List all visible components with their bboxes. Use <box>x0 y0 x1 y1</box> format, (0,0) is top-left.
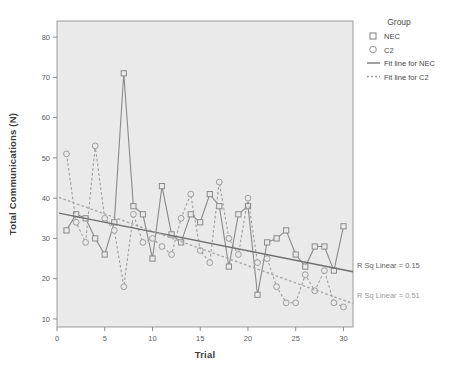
legend-item-nec[interactable]: NEC <box>384 32 400 41</box>
data-point-marker <box>140 212 145 217</box>
data-point-marker <box>92 143 98 149</box>
data-point-marker <box>102 215 108 221</box>
data-point-marker <box>64 228 69 233</box>
data-point-marker <box>293 300 299 306</box>
data-point-marker <box>236 212 241 217</box>
data-point-marker <box>312 244 317 249</box>
y-axis-title: Total Communications (N) <box>7 113 18 235</box>
data-point-marker <box>121 284 127 290</box>
data-point-marker <box>150 256 155 261</box>
data-point-marker <box>93 236 98 241</box>
data-point-marker <box>265 240 270 245</box>
data-point-marker <box>131 204 136 209</box>
data-point-marker <box>226 264 231 269</box>
data-point-marker <box>159 244 165 250</box>
data-point-marker <box>188 212 193 217</box>
data-point-marker <box>274 284 280 290</box>
scatter-line-chart: 1020304050607080 051015202530 Trial Tota… <box>0 0 461 382</box>
data-point-marker <box>283 300 289 306</box>
y-tick-label: 40 <box>42 194 50 203</box>
data-point-marker <box>303 264 308 269</box>
data-point-marker <box>255 260 261 266</box>
data-point-marker <box>226 236 232 242</box>
data-point-marker <box>150 236 156 242</box>
y-tick-label: 10 <box>42 315 50 324</box>
data-point-marker <box>216 179 222 185</box>
chart-figure: 1020304050607080 051015202530 Trial Tota… <box>0 0 461 382</box>
data-point-marker <box>322 244 327 249</box>
data-point-marker <box>236 252 242 258</box>
data-point-marker <box>264 256 270 262</box>
legend-title: Group <box>387 17 411 27</box>
data-point-marker <box>274 236 279 241</box>
data-point-marker <box>207 260 213 266</box>
data-point-marker <box>207 192 212 197</box>
legend-item-fit-c2[interactable]: Fit line for C2 <box>384 73 429 82</box>
data-point-marker <box>255 292 260 297</box>
data-point-marker <box>131 211 137 217</box>
data-point-marker <box>284 228 289 233</box>
rsq-annotation-c2: R Sq Linear = 0.51 <box>357 291 420 300</box>
x-tick-label: 15 <box>196 334 204 343</box>
data-point-marker <box>198 220 203 225</box>
data-point-marker <box>121 71 126 76</box>
y-tick-label: 50 <box>42 154 50 163</box>
data-point-marker <box>331 300 337 306</box>
y-tick-label: 30 <box>42 234 50 243</box>
x-tick-label: 10 <box>148 334 156 343</box>
data-point-marker <box>245 195 251 201</box>
y-tick-label: 60 <box>42 113 50 122</box>
x-tick-label: 0 <box>55 334 59 343</box>
data-point-marker <box>341 304 347 310</box>
x-tick-label: 5 <box>103 334 107 343</box>
data-point-marker <box>188 191 194 197</box>
data-point-marker <box>73 219 79 225</box>
rsq-annotation-nec: R Sq Linear = 0.15 <box>357 261 420 270</box>
data-point-marker <box>140 240 146 246</box>
data-point-marker <box>159 184 164 189</box>
data-point-marker <box>111 228 117 234</box>
data-point-marker <box>64 151 70 157</box>
y-tick-label: 80 <box>42 33 50 42</box>
legend-item-fit-nec[interactable]: Fit line for NEC <box>384 59 435 68</box>
x-tick-label: 20 <box>244 334 252 343</box>
y-tick-label: 70 <box>42 73 50 82</box>
x-tick-label: 30 <box>339 334 347 343</box>
data-point-marker <box>302 272 308 278</box>
data-point-marker <box>341 224 346 229</box>
data-point-marker <box>169 252 175 258</box>
x-axis-title: Trial <box>195 349 216 360</box>
x-tick-label: 25 <box>292 334 300 343</box>
data-point-marker <box>102 252 107 257</box>
data-point-marker <box>322 268 328 274</box>
data-point-marker <box>178 215 184 221</box>
legend-item-c2[interactable]: C2 <box>384 46 394 55</box>
plot-area <box>57 21 353 327</box>
data-point-marker <box>293 252 298 257</box>
data-point-marker <box>217 204 222 209</box>
y-tick-label: 20 <box>42 274 50 283</box>
data-point-marker <box>83 240 89 246</box>
